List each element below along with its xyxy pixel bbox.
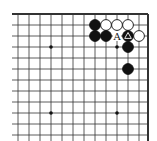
point-labels: A [112,31,121,42]
white-stone [101,20,112,31]
black-stone [123,42,134,53]
go-board: A [0,0,157,141]
point-label: A [112,31,121,42]
black-stone [101,31,112,42]
star-point [115,111,119,115]
black-stone [123,64,134,75]
star-point [49,111,53,115]
black-stone [90,31,101,42]
black-stone [90,20,101,31]
white-stone [123,20,134,31]
white-stone [134,31,145,42]
star-point [115,45,119,49]
white-stone [112,20,123,31]
star-point [49,45,53,49]
